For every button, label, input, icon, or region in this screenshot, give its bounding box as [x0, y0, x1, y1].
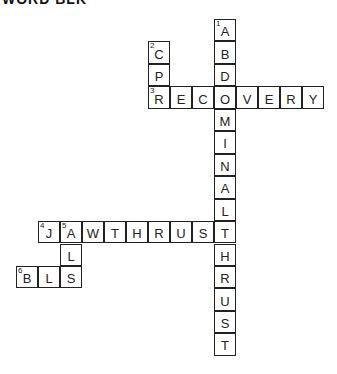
crossword-cell[interactable]: C [192, 86, 214, 108]
clue-number: 6 [18, 267, 22, 275]
cell-letter: E [177, 92, 186, 107]
crossword-cell[interactable]: V [236, 86, 258, 108]
cell-letter: C [154, 47, 163, 62]
crossword-cell[interactable]: L [214, 199, 236, 221]
crossword-cell[interactable]: 6B [16, 266, 38, 288]
cell-letter: U [220, 294, 229, 309]
cell-letter: D [220, 69, 229, 84]
cell-letter: A [221, 181, 230, 196]
cell-letter: R [220, 271, 229, 286]
crossword-cell[interactable]: T [214, 221, 236, 243]
crossword-cell[interactable]: D [214, 64, 236, 86]
crossword-cell[interactable]: E [170, 86, 192, 108]
crossword-cell[interactable]: W [82, 221, 104, 243]
crossword-cell[interactable]: S [192, 221, 214, 243]
crossword-cell[interactable]: N [214, 154, 236, 176]
clue-number: 4 [40, 222, 44, 230]
crossword-cell[interactable]: 5A [60, 221, 82, 243]
crossword-cell[interactable]: L [60, 244, 82, 266]
crossword-cell[interactable]: A [214, 176, 236, 198]
crossword-cell[interactable]: R [148, 221, 170, 243]
clue-number: 5 [62, 222, 66, 230]
crossword-cell[interactable]: I [214, 131, 236, 153]
cell-letter: I [223, 136, 227, 151]
cell-letter: L [221, 204, 228, 219]
cell-letter: J [46, 226, 53, 241]
crossword-cell[interactable]: 3R [148, 86, 170, 108]
crossword-grid: 1ABDOMINALTHRUST2CP3RECVERY4J5AWTHRUSLS6… [0, 0, 337, 374]
cell-letter: O [220, 92, 230, 107]
cell-letter: R [154, 92, 163, 107]
clue-number: 3 [150, 87, 154, 95]
cell-letter: W [87, 226, 99, 241]
cell-letter: H [220, 249, 229, 264]
cell-letter: Y [309, 92, 318, 107]
cell-letter: R [286, 92, 295, 107]
crossword-cell[interactable]: H [214, 244, 236, 266]
cell-letter: L [67, 249, 74, 264]
cell-letter: L [45, 271, 52, 286]
crossword-cell[interactable]: 4J [38, 221, 60, 243]
cell-letter: T [221, 338, 229, 353]
cell-letter: M [220, 114, 231, 129]
crossword-cell[interactable]: O [214, 86, 236, 108]
cell-letter: E [265, 92, 274, 107]
crossword-cell[interactable]: M [214, 109, 236, 131]
cell-letter: A [67, 226, 76, 241]
crossword-cell[interactable]: S [214, 311, 236, 333]
crossword-cell[interactable]: T [214, 333, 236, 355]
crossword-cell[interactable]: R [214, 266, 236, 288]
crossword-cell[interactable]: 2C [148, 41, 170, 63]
crossword-cell[interactable]: R [280, 86, 302, 108]
cell-letter: R [154, 226, 163, 241]
cell-letter: T [221, 226, 229, 241]
clue-number: 2 [150, 42, 154, 50]
cell-letter: T [111, 226, 119, 241]
cell-letter: S [199, 226, 208, 241]
crossword-cell[interactable]: U [170, 221, 192, 243]
crossword-cell[interactable]: H [126, 221, 148, 243]
crossword-cell[interactable]: E [258, 86, 280, 108]
cell-letter: C [198, 92, 207, 107]
cell-letter: S [67, 271, 76, 286]
cell-letter: H [132, 226, 141, 241]
clue-number: 1 [216, 20, 220, 28]
crossword-cell[interactable]: 1A [214, 19, 236, 41]
crossword-cell[interactable]: U [214, 288, 236, 310]
cell-letter: V [243, 92, 252, 107]
cell-letter: B [221, 47, 230, 62]
crossword-cell[interactable]: T [104, 221, 126, 243]
cell-letter: N [220, 159, 229, 174]
cell-letter: B [23, 271, 32, 286]
crossword-cell[interactable]: B [214, 41, 236, 63]
crossword-cell[interactable]: Y [302, 86, 324, 108]
crossword-cell[interactable]: L [38, 266, 60, 288]
crossword-cell[interactable]: S [60, 266, 82, 288]
cell-letter: P [155, 69, 164, 84]
cell-letter: S [221, 316, 230, 331]
cell-letter: U [176, 226, 185, 241]
crossword-cell[interactable]: P [148, 64, 170, 86]
cell-letter: A [221, 24, 230, 39]
